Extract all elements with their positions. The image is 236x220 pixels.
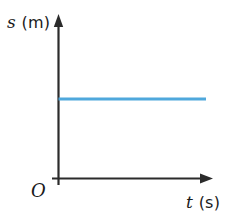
y-axis-arrowhead — [54, 14, 63, 27]
x-axis-label: t (s) — [186, 194, 220, 211]
x-axis-symbol: t — [186, 192, 193, 212]
x-axis-unit: (s) — [199, 193, 220, 212]
graph-figure: s (m) t (s) O — [0, 0, 236, 220]
y-axis-label: s (m) — [7, 14, 50, 31]
origin-label: O — [31, 182, 46, 200]
x-axis-arrowhead — [200, 174, 213, 184]
y-axis-unit: (m) — [22, 13, 51, 32]
y-axis-symbol: s — [7, 12, 16, 32]
